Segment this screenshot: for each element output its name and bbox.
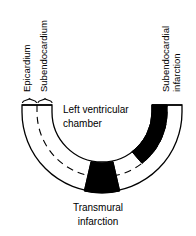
label-transmural-line2: infarction [0,215,196,229]
label-transmural-line1: Transmural [0,201,196,215]
label-subendocardium: Subendocardium [39,20,50,92]
diagram-figure: Epicardium Subendocardium Subendocardial… [0,0,196,236]
label-chamber-line2: chamber [63,117,129,131]
label-subendocardial-infarction-line2: infarction [171,26,182,92]
label-left-ventricular-chamber: Left ventricular chamber [63,103,129,130]
transmural-infarction-overlay [84,162,119,193]
label-epicardium: Epicardium [22,44,33,92]
label-subendocardial-infarction-line1: Subendocardial [160,26,171,92]
label-chamber-line1: Left ventricular [63,103,129,117]
label-subendocardial-infarction: Subendocardial infarction [160,26,182,92]
label-transmural-infarction: Transmural infarction [0,201,196,228]
